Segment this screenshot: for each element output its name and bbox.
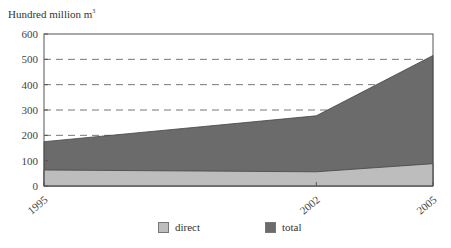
legend-label-total: total xyxy=(282,221,302,233)
y-tick-label-0: 0 xyxy=(33,180,39,192)
y-tick-label-500: 500 xyxy=(22,53,39,65)
y-tick-label-100: 100 xyxy=(22,155,39,167)
y-tick-label-300: 300 xyxy=(22,104,39,116)
legend-label-direct: direct xyxy=(175,221,200,233)
y-tick-label-200: 200 xyxy=(22,129,39,141)
y-tick-label-400: 400 xyxy=(22,79,39,91)
x-tick-label-2002: 2002 xyxy=(297,193,322,216)
x-axis: 199520022005 xyxy=(25,182,439,217)
legend-item-direct: direct xyxy=(158,221,200,233)
x-tick-label-1995: 1995 xyxy=(25,193,50,217)
x-tick-label-2005: 2005 xyxy=(414,193,439,217)
area-total xyxy=(44,56,433,187)
legend: direct total xyxy=(0,221,451,237)
area-chart: 0100200300400500600 199520022005 xyxy=(0,0,451,248)
legend-swatch-direct xyxy=(158,222,169,233)
y-tick-label-600: 600 xyxy=(22,28,39,40)
legend-item-total: total xyxy=(265,221,302,233)
chart-areas xyxy=(44,56,433,187)
legend-swatch-total xyxy=(265,222,276,233)
